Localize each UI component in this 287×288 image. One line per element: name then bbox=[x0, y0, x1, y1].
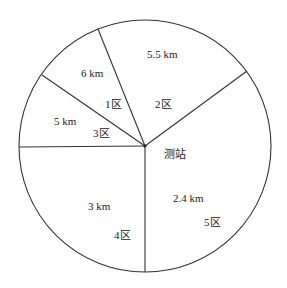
sector-diagram: 6 km 1区 5.5 km 2区 5 km 3区 3 km 4区 2.4 km… bbox=[0, 0, 287, 288]
sector-3-distance: 5 km bbox=[54, 115, 77, 127]
sector-3-zone: 3区 bbox=[93, 127, 110, 139]
sector-2-zone: 2区 bbox=[155, 98, 172, 110]
sector-5-distance: 2.4 km bbox=[173, 192, 204, 204]
sector-4-distance: 3 km bbox=[88, 200, 111, 212]
sector-4-zone: 4区 bbox=[114, 229, 131, 241]
sector-1-distance: 6 km bbox=[81, 67, 104, 79]
station-label: 测站 bbox=[164, 147, 186, 160]
sector-5-zone: 5区 bbox=[204, 216, 221, 228]
sector-2-distance: 5.5 km bbox=[147, 48, 178, 60]
station-point bbox=[143, 144, 146, 147]
sector-1-zone: 1区 bbox=[105, 98, 122, 110]
radius-line-west bbox=[19, 146, 145, 147]
